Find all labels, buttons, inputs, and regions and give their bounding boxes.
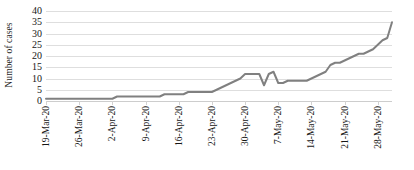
x-axis-tick-mark — [46, 101, 47, 105]
x-axis-tick-mark — [146, 101, 147, 105]
x-axis-tick-mark — [345, 101, 346, 105]
x-axis-tick-mark — [179, 101, 180, 105]
x-axis-tick-mark — [378, 101, 379, 105]
x-axis-tick-mark — [212, 101, 213, 105]
y-axis-tick-label: 20 — [18, 51, 42, 61]
x-axis-tick-marks — [46, 101, 392, 105]
series-polyline — [46, 22, 392, 99]
x-axis-tick-label: 28-May-20 — [371, 106, 385, 168]
y-axis-tick-label: 10 — [18, 74, 42, 84]
x-axis-tick-label: 19-Mar-20 — [39, 106, 53, 168]
x-axis-tick-label: 14-May-20 — [304, 106, 318, 168]
y-axis-tick-label: 0 — [18, 96, 42, 106]
x-axis-tick-label: 23-Apr-20 — [205, 106, 219, 168]
x-axis-tick-label: 26-Mar-20 — [72, 106, 86, 168]
x-axis-tick-label: 2-Apr-20 — [105, 106, 119, 168]
x-axis-tick-label: 21-May-20 — [338, 106, 352, 168]
y-axis-tick-label: 5 — [18, 85, 42, 95]
x-axis-tick-labels: 19-Mar-2026-Mar-202-Apr-209-Apr-2016-Apr… — [46, 106, 392, 168]
x-axis-tick-mark — [245, 101, 246, 105]
plot-area — [46, 11, 392, 101]
y-axis-tick-labels: 0510152025303540 — [18, 6, 44, 107]
y-axis-tick-label: 15 — [18, 62, 42, 72]
x-axis-tick-label: 30-Apr-20 — [238, 106, 252, 168]
x-axis-tick-mark — [311, 101, 312, 105]
x-axis-tick-label: 9-Apr-20 — [139, 106, 153, 168]
x-axis-tick-mark — [79, 101, 80, 105]
x-axis-tick-mark — [112, 101, 113, 105]
y-axis-tick-label: 30 — [18, 29, 42, 39]
x-axis-tick-label: 16-Apr-20 — [172, 106, 186, 168]
y-axis-tick-label: 35 — [18, 17, 42, 27]
y-axis-tick-label: 40 — [18, 6, 42, 16]
y-axis-tick-label: 25 — [18, 40, 42, 50]
x-axis-tick-label: 7-May-20 — [271, 106, 285, 168]
x-axis-tick-mark — [278, 101, 279, 105]
line-chart: Number of cases 0510152025303540 19-Mar-… — [0, 0, 414, 170]
y-axis-title: Number of cases — [0, 0, 18, 110]
y-axis-title-label: Number of cases — [4, 22, 14, 87]
series-line — [46, 11, 392, 101]
